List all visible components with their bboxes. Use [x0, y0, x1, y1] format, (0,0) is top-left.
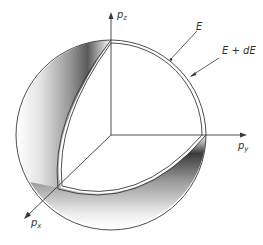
py-arrowhead-icon [240, 133, 247, 138]
px-axis-label: px [31, 218, 42, 230]
e-plus-de-label: E + dE [222, 46, 256, 56]
py-axis-label: py [238, 141, 249, 153]
pz-axis-label: pz [117, 10, 127, 22]
left-shell-shading [18, 40, 111, 188]
outer-shell-edge-top [111, 40, 206, 135]
inner-shell-edge-top [111, 43, 202, 135]
e-leader-line [170, 31, 197, 60]
e-leader-dot [170, 58, 172, 60]
shell-diagram [0, 0, 263, 245]
pz-arrowhead-icon [109, 12, 114, 19]
e-label: E [196, 22, 202, 32]
